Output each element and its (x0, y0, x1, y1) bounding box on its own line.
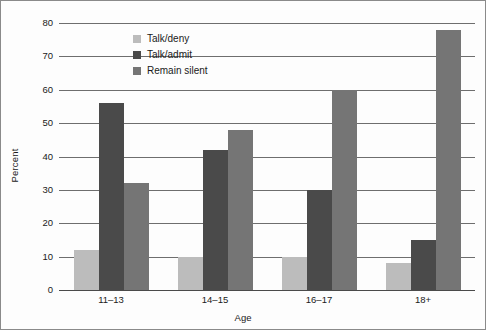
bar (332, 90, 357, 290)
y-tick-label: 0 (23, 285, 53, 295)
y-tick-label: 50 (23, 118, 53, 128)
gridline-0 (59, 290, 475, 291)
bar (436, 30, 461, 290)
x-tick-label: 16–17 (279, 294, 359, 305)
bar (411, 240, 436, 290)
plot-area: 01020304050607080 (59, 23, 475, 290)
bar (74, 250, 99, 290)
x-tick-label: 18+ (383, 294, 463, 305)
y-tick-label: 60 (23, 85, 53, 95)
bar (307, 190, 332, 290)
y-tick-label: 10 (23, 252, 53, 262)
y-axis-title-text: Percent (9, 148, 20, 182)
y-tick-label: 80 (23, 18, 53, 28)
legend-swatch-icon (133, 35, 141, 43)
y-tick-label: 70 (23, 52, 53, 62)
x-tick-label: 14–15 (175, 294, 255, 305)
bar (178, 257, 203, 290)
bar (99, 103, 124, 290)
legend-item: Talk/deny (133, 32, 208, 46)
x-axis-title-text: Age (235, 312, 252, 323)
legend-item: Talk/admit (133, 48, 208, 62)
bar (282, 257, 307, 290)
x-axis-title: Age (1, 312, 485, 323)
bar (386, 263, 411, 290)
y-tick-label: 40 (23, 152, 53, 162)
bar (124, 183, 149, 290)
legend-label: Talk/deny (147, 34, 189, 44)
x-axis-tick-labels: 11–1314–1516–1718+ (59, 294, 475, 310)
legend-item: Remain silent (133, 64, 208, 78)
bar (203, 150, 228, 290)
y-axis-title: Percent (5, 1, 23, 329)
legend-swatch-icon (133, 67, 141, 75)
y-tick-label: 20 (23, 219, 53, 229)
chart-legend: Talk/denyTalk/admitRemain silent (133, 32, 208, 78)
y-tick-label: 30 (23, 185, 53, 195)
bars-layer (59, 23, 475, 290)
legend-label: Remain silent (147, 66, 208, 76)
bar-group (282, 23, 357, 290)
bar (228, 130, 253, 290)
legend-label: Talk/admit (147, 50, 192, 60)
x-tick-label: 11–13 (71, 294, 151, 305)
legend-swatch-icon (133, 51, 141, 59)
bar-group (386, 23, 461, 290)
chart-figure: Percent 01020304050607080 11–1314–1516–1… (0, 0, 486, 330)
